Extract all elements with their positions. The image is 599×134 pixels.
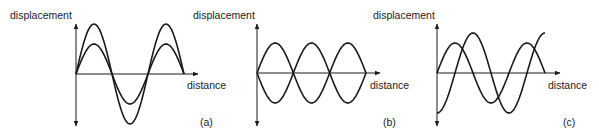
panel-tag: (a) [200, 116, 213, 128]
x-axis-label: distance [187, 79, 226, 91]
y-axis-label: displacement [193, 9, 255, 21]
y-axis-label: displacement [10, 9, 72, 21]
wave-diagram: displacement distance (a) displacement d… [0, 0, 599, 134]
panel-tag: (c) [563, 116, 575, 128]
x-axis-label: distance [548, 79, 587, 91]
panel-b: displacement distance (b) [193, 9, 409, 128]
panel-c: displacement distance (c) [373, 9, 587, 128]
panel-tag: (b) [383, 116, 396, 128]
panel-a: displacement distance (a) [10, 9, 226, 128]
y-axis-label: displacement [373, 9, 435, 21]
x-axis-label: distance [370, 79, 409, 91]
